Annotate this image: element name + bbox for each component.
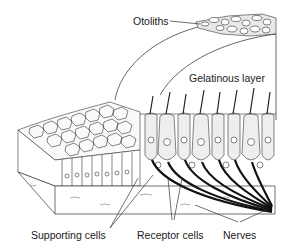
gelatinous-inner-curve: [160, 34, 276, 95]
label-receptor-cells: Receptor cells: [137, 230, 204, 241]
gelatinous-outer-curve: [115, 27, 198, 100]
stereocilia: [150, 88, 270, 114]
label-otoliths: Otoliths: [133, 16, 169, 27]
receptor-cells: [145, 113, 274, 160]
otoliths-leader: [170, 21, 200, 24]
label-nerves: Nerves: [223, 230, 256, 241]
otolith-organ-diagram: Otoliths Gelatinous layer Supporting cel…: [0, 0, 293, 252]
otoliths-cluster: [196, 14, 276, 36]
label-gelatinous-layer: Gelatinous layer: [189, 73, 265, 84]
diagram-drawing: [0, 0, 293, 252]
label-supporting-cells: Supporting cells: [31, 230, 106, 241]
